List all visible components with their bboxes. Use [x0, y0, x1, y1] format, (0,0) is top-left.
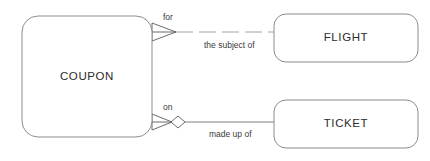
relationship-coupon-flight[interactable]: for the subject of [152, 12, 274, 50]
relationship-coupon-ticket[interactable]: on made up of [152, 102, 274, 139]
entity-coupon-label: COUPON [60, 70, 114, 82]
crows-foot-icon-coupon-ticket [152, 114, 172, 130]
entity-ticket-label: TICKET [324, 117, 369, 129]
entity-ticket[interactable]: TICKET [274, 100, 418, 148]
crows-foot-icon-coupon-flight [152, 23, 176, 41]
er-diagram-canvas: for the subject of on made up of COUPON [0, 0, 430, 161]
relationship-near-label-on: on [163, 102, 173, 112]
diagram-svg: for the subject of on made up of COUPON [0, 0, 430, 161]
entity-flight[interactable]: FLIGHT [274, 14, 418, 62]
diamond-cardinality-icon [171, 116, 185, 128]
relationship-far-label-the-subject-of: the subject of [204, 40, 255, 50]
entity-flight-label: FLIGHT [324, 31, 369, 43]
relationship-near-label-for: for [163, 12, 173, 22]
relationship-far-label-made-up-of: made up of [209, 129, 252, 139]
entity-coupon[interactable]: COUPON [22, 16, 152, 137]
